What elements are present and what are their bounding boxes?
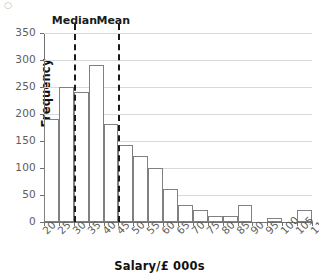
histogram-bar: [89, 65, 104, 222]
y-tick-label: 200: [2, 107, 36, 119]
x-axis-title: Salary/£ 000s: [0, 259, 319, 273]
corner-artifact: ○: [4, 0, 12, 10]
plot-area: [44, 33, 312, 222]
y-tick-label: 350: [2, 26, 36, 38]
y-tick-mark: [40, 60, 44, 61]
gridline: [44, 33, 312, 34]
histogram-chart: ○ Frequency 050100150200250300350 202530…: [0, 0, 319, 277]
annotation-line-median: [74, 24, 76, 222]
y-tick-mark: [40, 141, 44, 142]
y-tick-mark: [40, 114, 44, 115]
y-tick-mark: [40, 87, 44, 88]
annotation-label-mean: Mean: [96, 14, 130, 27]
y-tick-label: 0: [2, 215, 36, 227]
histogram-bar: [104, 124, 119, 222]
histogram-bar: [74, 92, 89, 222]
histogram-bar: [44, 119, 59, 222]
y-tick-mark: [40, 168, 44, 169]
histogram-bar: [118, 145, 133, 222]
histogram-bar: [59, 87, 74, 222]
y-tick-label: 300: [2, 53, 36, 65]
histogram-bar: [133, 156, 148, 222]
y-tick-label: 50: [2, 188, 36, 200]
gridline: [44, 87, 312, 88]
histogram-bar: [163, 189, 178, 222]
y-tick-label: 150: [2, 134, 36, 146]
histogram-bar: [178, 205, 193, 222]
annotation-label-median: Median: [52, 14, 97, 27]
annotation-line-mean: [118, 24, 120, 222]
gridline: [44, 60, 312, 61]
y-tick-label: 100: [2, 161, 36, 173]
y-tick-mark: [40, 195, 44, 196]
histogram-bar: [148, 168, 163, 222]
y-tick-mark: [40, 33, 44, 34]
y-tick-label: 250: [2, 80, 36, 92]
